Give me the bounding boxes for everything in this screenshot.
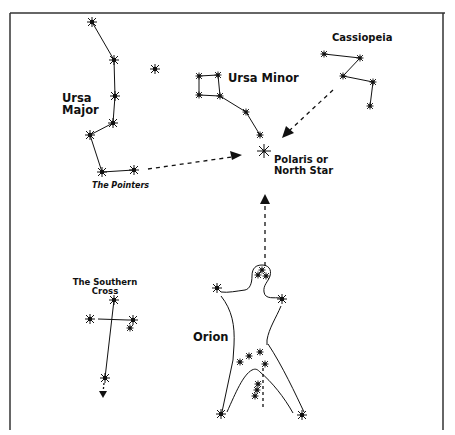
orion-label: Orion (193, 331, 228, 343)
polaris-label-line1: Polaris or (274, 155, 333, 166)
southern-cross-constellation (85, 295, 138, 398)
polaris-label-line2: North Star (274, 166, 333, 177)
southern-cross-label: The Southern Cross (72, 278, 138, 296)
orion-arrow (260, 194, 270, 410)
ursa-major-label: Ursa Major (62, 92, 99, 116)
ursa-minor-label: Ursa Minor (228, 72, 299, 84)
cassiopeia-arrow (282, 90, 333, 138)
pointers-arrow (148, 151, 242, 169)
polaris-label: Polaris or North Star (274, 155, 333, 176)
ursa-major-label-line2: Major (62, 104, 99, 116)
cassiopeia-label: Cassiopeia (332, 33, 392, 44)
star-map-canvas (0, 0, 455, 435)
isolated-star-icon (150, 64, 160, 74)
polaris-star-icon (257, 144, 271, 158)
star-map: Ursa Major The Pointers Ursa Minor Cassi… (0, 0, 455, 435)
the-pointers-label: The Pointers (92, 182, 149, 190)
southern-cross-label-line2: Cross (72, 287, 138, 296)
orion-constellation (221, 265, 304, 413)
cassiopeia-constellation (321, 51, 377, 110)
